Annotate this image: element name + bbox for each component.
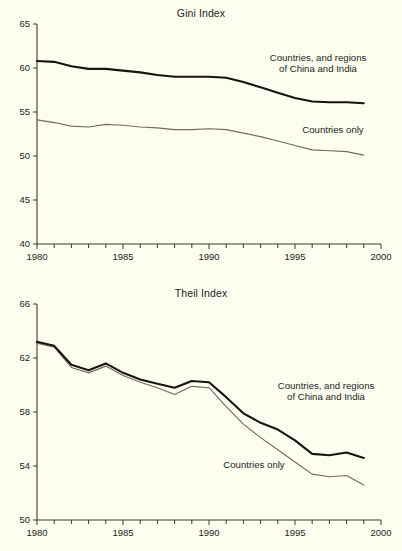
x-tick-label: 1980 <box>26 527 47 538</box>
x-tick-label: 1995 <box>284 527 305 538</box>
y-tick-label: 60 <box>19 62 30 73</box>
y-tick-label: 54 <box>19 460 30 471</box>
gini-index-plot: 40455055606519801985199019952000 <box>0 0 402 280</box>
chart-panel-theil: Theil Index 5054586266198019851990199520… <box>0 280 402 551</box>
x-tick-label: 1995 <box>284 251 305 262</box>
x-tick-label: 1985 <box>112 527 133 538</box>
x-tick-label: 1990 <box>198 527 219 538</box>
y-tick-label: 58 <box>19 406 30 417</box>
y-tick-label: 50 <box>19 514 30 525</box>
x-tick-label: 1980 <box>26 251 47 262</box>
x-tick-label: 1990 <box>198 251 219 262</box>
gini-annotation-countries: Countries only <box>277 124 389 135</box>
gini-annotation-regions: Countries, and regions of China and Indi… <box>243 52 393 75</box>
x-tick-label: 2000 <box>370 251 391 262</box>
x-tick-label: 2000 <box>370 527 391 538</box>
y-tick-label: 55 <box>19 106 30 117</box>
y-tick-label: 40 <box>19 238 30 249</box>
y-tick-label: 65 <box>19 18 30 29</box>
chart-panel-gini: Gini Index 40455055606519801985199019952… <box>0 0 402 280</box>
theil-annotation-regions: Countries, and regions of China and Indi… <box>252 380 400 403</box>
y-tick-label: 62 <box>19 352 30 363</box>
y-tick-label: 66 <box>19 298 30 309</box>
y-tick-label: 50 <box>19 150 30 161</box>
plot-axes <box>37 304 381 520</box>
x-tick-label: 1985 <box>112 251 133 262</box>
theil-annotation-countries: Countries only <box>198 459 310 470</box>
y-tick-label: 45 <box>19 194 30 205</box>
theil-index-plot: 505458626619801985199019952000 <box>0 280 402 551</box>
